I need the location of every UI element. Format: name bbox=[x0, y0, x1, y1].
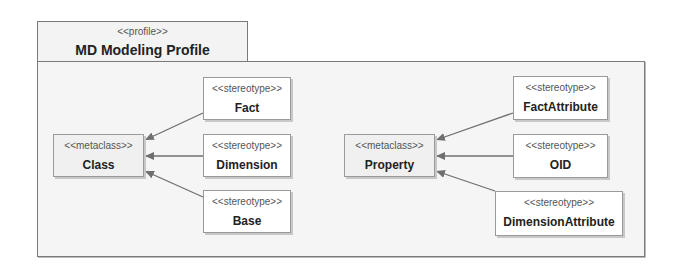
class-name: Base bbox=[204, 214, 290, 229]
stereotype-dimensionattribute[interactable]: <<stereotype>> DimensionAttribute bbox=[495, 191, 623, 236]
metaclass-property[interactable]: <<metaclass>> Property bbox=[344, 134, 435, 177]
class-name: Property bbox=[345, 158, 434, 173]
package-tab: <<profile>> MD Modeling Profile bbox=[37, 21, 248, 62]
stereotype-factattribute[interactable]: <<stereotype>> FactAttribute bbox=[513, 76, 608, 120]
stereotype-base[interactable]: <<stereotype>> Base bbox=[203, 190, 291, 233]
stereotype-label: <<stereotype>> bbox=[514, 82, 607, 94]
stereotype-dimension[interactable]: <<stereotype>> Dimension bbox=[203, 134, 291, 177]
class-name: DimensionAttribute bbox=[496, 215, 622, 230]
stereotype-fact[interactable]: <<stereotype>> Fact bbox=[203, 77, 291, 120]
metaclass-class[interactable]: <<metaclass>> Class bbox=[53, 134, 144, 177]
class-name: Fact bbox=[204, 101, 290, 116]
stereotype-label: <<stereotype>> bbox=[204, 196, 290, 208]
stereotype-label: <<stereotype>> bbox=[496, 197, 622, 209]
stereotype-oid[interactable]: <<stereotype>> OID bbox=[513, 134, 608, 178]
stereotype-label: <<stereotype>> bbox=[204, 140, 290, 152]
class-name: OID bbox=[514, 158, 607, 173]
stereotype-label: <<stereotype>> bbox=[204, 83, 290, 95]
class-name: Class bbox=[54, 158, 143, 173]
class-name: FactAttribute bbox=[514, 100, 607, 115]
class-name: Dimension bbox=[204, 158, 290, 173]
stereotype-label: <<metaclass>> bbox=[54, 140, 143, 152]
stereotype-label: <<metaclass>> bbox=[345, 140, 434, 152]
stereotype-label: <<stereotype>> bbox=[514, 140, 607, 152]
package-stereotype: <<profile>> bbox=[38, 26, 247, 38]
package-name: MD Modeling Profile bbox=[38, 41, 247, 59]
